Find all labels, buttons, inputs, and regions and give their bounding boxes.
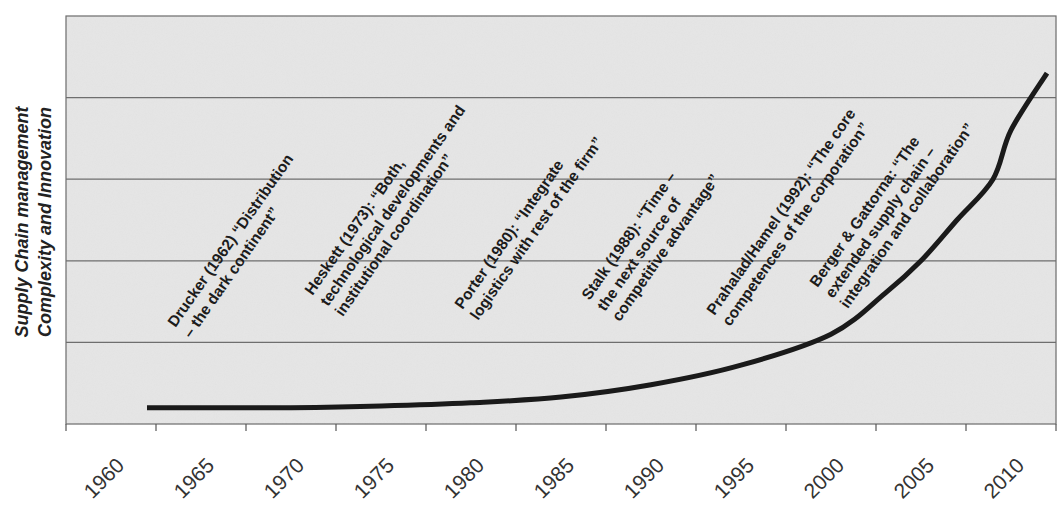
chart: Supply Chain management Complexity and I… <box>0 0 1064 529</box>
y-axis-title-line-2: Complexity and Innovation <box>34 72 57 372</box>
x-axis <box>66 424 1056 431</box>
y-axis-title: Supply Chain management Complexity and I… <box>11 72 57 372</box>
plot-area <box>0 0 1064 529</box>
y-axis-title-line-1: Supply Chain management <box>11 72 34 372</box>
